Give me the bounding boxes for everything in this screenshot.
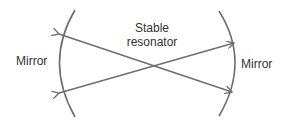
- right-mirror: [219, 11, 235, 116]
- title-line1: Stable: [112, 21, 192, 35]
- beam-path-2: [59, 43, 234, 93]
- title-line2: resonator: [112, 35, 192, 49]
- left-mirror: [60, 10, 76, 117]
- right-mirror-label: Mirror: [241, 57, 272, 71]
- left-mirror-label: Mirror: [16, 54, 47, 68]
